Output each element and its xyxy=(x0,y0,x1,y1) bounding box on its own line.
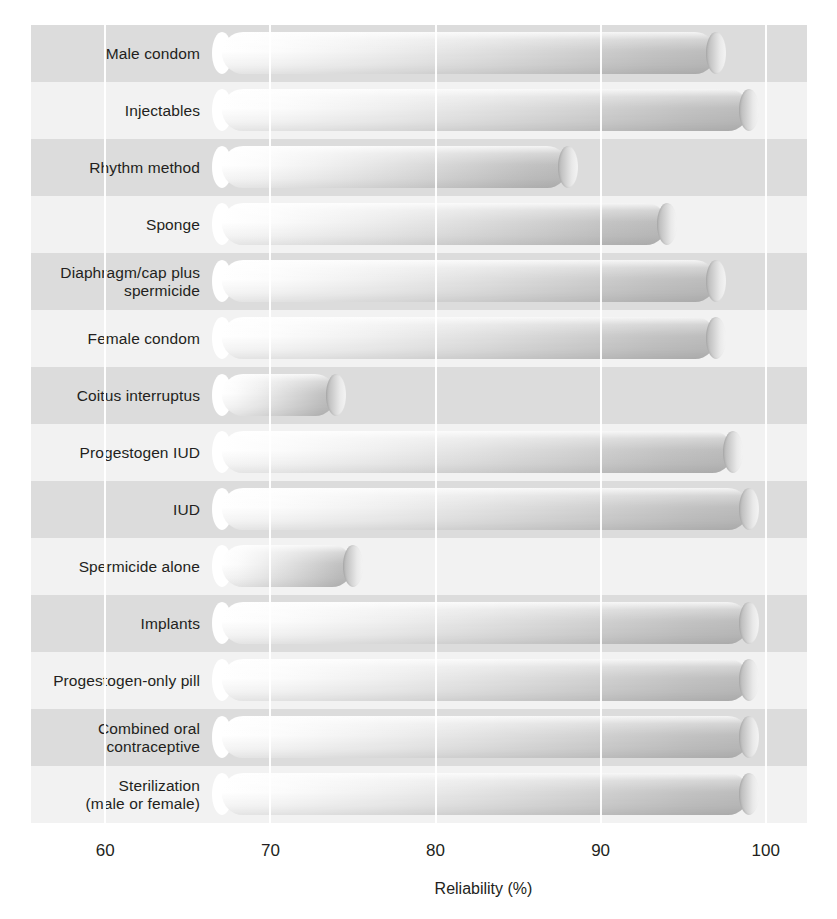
chart-row: Progestogen IUD xyxy=(31,424,807,481)
bar-body xyxy=(222,488,749,530)
category-label: Combined oral contraceptive xyxy=(31,709,209,766)
bar-track xyxy=(222,253,807,310)
bar-end-cap xyxy=(739,716,759,758)
chart-row: Rhythm method xyxy=(31,139,807,196)
bar-track xyxy=(222,139,807,196)
bar-body xyxy=(222,260,716,302)
chart-row: Injectables xyxy=(31,82,807,139)
bar-tube xyxy=(222,89,749,131)
chart-row: Combined oral contraceptive xyxy=(31,709,807,766)
bar-tube xyxy=(222,203,667,245)
bar-end-cap xyxy=(739,89,759,131)
bar-end-cap xyxy=(739,659,759,701)
bar-body xyxy=(222,317,716,359)
x-axis: 60708090100 Reliability (%) xyxy=(0,823,837,919)
bar-body xyxy=(222,716,749,758)
category-label: Sterilization (male or female) xyxy=(31,766,209,823)
bar-tube xyxy=(222,317,716,359)
chart-row: Coitus interruptus xyxy=(31,367,807,424)
chart-row: Diaphragm/cap plus spermicide xyxy=(31,253,807,310)
bar-tube xyxy=(222,374,336,416)
category-label: Spermicide alone xyxy=(31,538,209,595)
chart-row: Implants xyxy=(31,595,807,652)
category-label: Coitus interruptus xyxy=(31,367,209,424)
category-label: Sponge xyxy=(31,196,209,253)
bar-body xyxy=(222,32,716,74)
bar-track xyxy=(222,538,807,595)
bar-end-cap xyxy=(558,146,578,188)
bar-body xyxy=(222,89,749,131)
x-axis-title-label: Reliability (%) xyxy=(435,880,533,898)
bar-end-cap xyxy=(326,374,346,416)
bar-end-cap xyxy=(706,260,726,302)
bar-track xyxy=(222,82,807,139)
bar-end-cap xyxy=(706,32,726,74)
category-label: Injectables xyxy=(31,82,209,139)
category-label: Male condom xyxy=(31,25,209,82)
chart-row: Male condom xyxy=(31,25,807,82)
bar-tube xyxy=(222,773,749,815)
chart-row: IUD xyxy=(31,481,807,538)
bar-track xyxy=(222,709,807,766)
bar-end-cap xyxy=(739,773,759,815)
bar-body xyxy=(222,374,336,416)
bar-tube xyxy=(222,602,749,644)
bar-body xyxy=(222,659,749,701)
bar-end-cap xyxy=(739,488,759,530)
x-tick-label: 100 xyxy=(752,841,780,861)
bar-body xyxy=(222,203,667,245)
bar-track xyxy=(222,25,807,82)
category-label: IUD xyxy=(31,481,209,538)
x-tick-label: 80 xyxy=(426,841,445,861)
chart-row: Sponge xyxy=(31,196,807,253)
chart-row: Female condom xyxy=(31,310,807,367)
category-label: Implants xyxy=(31,595,209,652)
category-label: Progestogen-only pill xyxy=(31,652,209,709)
bar-tube xyxy=(222,260,716,302)
bar-body xyxy=(222,545,353,587)
bar-end-cap xyxy=(343,545,363,587)
bar-tube xyxy=(222,32,716,74)
bar-tube xyxy=(222,431,733,473)
bar-body xyxy=(222,602,749,644)
category-label: Female condom xyxy=(31,310,209,367)
bar-track xyxy=(222,652,807,709)
bar-track xyxy=(222,367,807,424)
chart-plot-area: Male condomInjectablesRhythm methodSpong… xyxy=(31,25,807,823)
chart-row: Spermicide alone xyxy=(31,538,807,595)
bar-end-cap xyxy=(706,317,726,359)
reliability-bar-chart: Male condomInjectablesRhythm methodSpong… xyxy=(0,0,837,919)
chart-row: Progestogen-only pill xyxy=(31,652,807,709)
category-label: Diaphragm/cap plus spermicide xyxy=(31,253,209,310)
bar-track xyxy=(222,424,807,481)
bar-end-cap xyxy=(739,602,759,644)
bar-body xyxy=(222,146,568,188)
category-label: Rhythm method xyxy=(31,139,209,196)
x-tick-label: 70 xyxy=(261,841,280,861)
bar-tube xyxy=(222,146,568,188)
bar-tube xyxy=(222,716,749,758)
bar-tube xyxy=(222,545,353,587)
chart-row: Sterilization (male or female) xyxy=(31,766,807,823)
bar-body xyxy=(222,431,733,473)
bar-end-cap xyxy=(723,431,743,473)
bar-end-cap xyxy=(657,203,677,245)
bar-track xyxy=(222,766,807,823)
x-tick-label: 90 xyxy=(591,841,610,861)
bar-tube xyxy=(222,659,749,701)
x-tick-label: 60 xyxy=(96,841,115,861)
bar-tube xyxy=(222,488,749,530)
bar-track xyxy=(222,481,807,538)
category-label: Progestogen IUD xyxy=(31,424,209,481)
bar-body xyxy=(222,773,749,815)
bar-track xyxy=(222,595,807,652)
bar-track xyxy=(222,196,807,253)
x-axis-title: Reliability (%) xyxy=(0,880,837,898)
bar-track xyxy=(222,310,807,367)
